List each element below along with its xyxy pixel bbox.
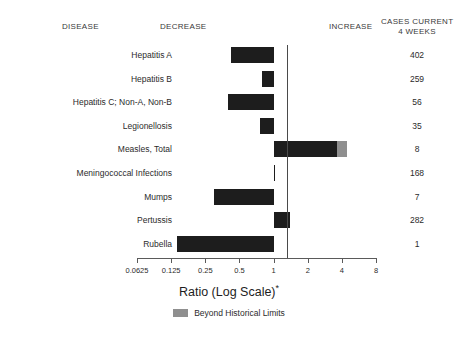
bar-ratio: [260, 118, 274, 134]
column-header-cases-line1: CASES CURRENT: [381, 17, 453, 27]
x-axis: 0.06250.1250.250.51248: [0, 258, 458, 280]
row-label-disease: Hepatitis C; Non-A, Non-B: [0, 97, 172, 107]
chart-row: Rubella1: [0, 234, 458, 258]
chart-row: Legionellosis35: [0, 116, 458, 140]
x-axis-tick-label: 1: [272, 266, 276, 275]
x-axis-tick-label: 2: [306, 266, 310, 275]
row-value-cases-current-4-weeks: 1: [381, 239, 453, 249]
row-value-cases-current-4-weeks: 56: [381, 97, 453, 107]
bar-ratio: [274, 141, 347, 157]
chart-row: Pertussis282: [0, 210, 458, 234]
x-axis-tick-label: 8: [374, 266, 378, 275]
column-header-disease: DISEASE: [62, 22, 99, 31]
row-label-disease: Mumps: [0, 192, 172, 202]
x-axis-title: Ratio (Log Scale)*: [0, 283, 458, 299]
x-axis-tick-label: 0.25: [198, 266, 213, 275]
bar-ratio: [231, 47, 274, 63]
legend-label-beyond-historical-limits: Beyond Historical Limits: [194, 308, 285, 318]
chart-row: Hepatitis C; Non-A, Non-B56: [0, 92, 458, 116]
row-value-cases-current-4-weeks: 7: [381, 192, 453, 202]
disease-ratio-chart: DISEASE DECREASE INCREASE CASES CURRENT …: [0, 0, 458, 339]
column-header-cases-line2: 4 WEEKS: [381, 27, 453, 37]
plot-area: Hepatitis A402Hepatitis B259Hepatitis C;…: [0, 45, 458, 258]
legend-swatch-beyond-historical-limits: [173, 309, 188, 317]
chart-row: Hepatitis B259: [0, 69, 458, 93]
x-axis-tick: [376, 258, 377, 263]
row-value-cases-current-4-weeks: 35: [381, 121, 453, 131]
row-label-disease: Rubella: [0, 239, 172, 249]
bar-ratio: [274, 165, 276, 181]
row-label-disease: Pertussis: [0, 215, 172, 225]
row-label-disease: Meningococcal Infections: [0, 168, 172, 178]
chart-row: Meningococcal Infections168: [0, 163, 458, 187]
bar-ratio: [177, 236, 274, 252]
row-label-disease: Hepatitis B: [0, 74, 172, 84]
bar-ratio: [262, 71, 274, 87]
x-axis-tick: [171, 258, 172, 263]
x-axis-tick-label: 0.0625: [126, 266, 149, 275]
column-header-decrease: DECREASE: [160, 22, 206, 31]
x-axis-tick-label: 0.5: [234, 266, 244, 275]
chart-row: Mumps7: [0, 187, 458, 211]
row-value-cases-current-4-weeks: 8: [381, 144, 453, 154]
row-label-disease: Measles, Total: [0, 144, 172, 154]
column-header-cases-current-4-weeks: CASES CURRENT 4 WEEKS: [381, 17, 453, 37]
legend: Beyond Historical Limits: [0, 308, 458, 318]
row-value-cases-current-4-weeks: 168: [381, 168, 453, 178]
x-axis-tick: [205, 258, 206, 263]
x-axis-tick: [239, 258, 240, 263]
baseline-ratio-one: [287, 45, 288, 258]
x-axis-title-text: Ratio (Log Scale): [179, 285, 276, 299]
chart-row: Hepatitis A402: [0, 45, 458, 69]
row-value-cases-current-4-weeks: 259: [381, 74, 453, 84]
row-label-disease: Hepatitis A: [0, 50, 172, 60]
x-axis-tick: [274, 258, 275, 263]
x-axis-tick-label: 4: [340, 266, 344, 275]
x-axis-tick: [137, 258, 138, 263]
x-axis-title-footnote-marker: *: [276, 283, 280, 293]
bar-segment-beyond-historical-limits: [337, 141, 347, 157]
bar-ratio: [228, 94, 273, 110]
row-value-cases-current-4-weeks: 402: [381, 50, 453, 60]
x-axis-tick: [342, 258, 343, 263]
column-header-increase: INCREASE: [329, 22, 372, 31]
chart-row: Measles, Total8: [0, 139, 458, 163]
row-value-cases-current-4-weeks: 282: [381, 215, 453, 225]
x-axis-tick: [308, 258, 309, 263]
x-axis-line: [137, 258, 376, 259]
row-label-disease: Legionellosis: [0, 121, 172, 131]
x-axis-tick-label: 0.125: [162, 266, 181, 275]
bar-ratio: [214, 189, 273, 205]
